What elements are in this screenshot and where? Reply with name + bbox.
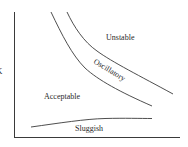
region-label-sluggish: Sluggish bbox=[75, 124, 103, 133]
region-label-oscillatory: Oscillatory bbox=[92, 57, 127, 83]
region-label-acceptable: Acceptable bbox=[44, 92, 80, 101]
stability-region-diagram: K Unstable Oscillatory Acceptable Sluggi… bbox=[0, 0, 188, 147]
oscillatory-unstable-boundary bbox=[67, 12, 173, 94]
region-label-unstable: Unstable bbox=[106, 33, 135, 42]
y-axis-label: K bbox=[0, 66, 3, 76]
